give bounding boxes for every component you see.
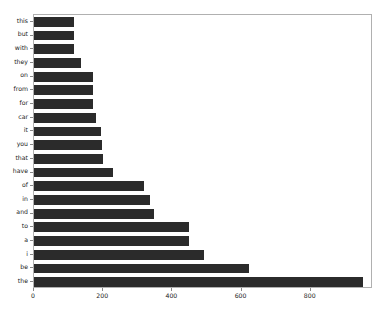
y-tick-label: but	[18, 31, 28, 37]
y-axis: thisbutwiththeyonfromforcarityouthathave…	[0, 14, 33, 288]
bar	[34, 99, 93, 109]
y-tick-label: you	[17, 141, 28, 147]
y-tick-label: this	[17, 18, 28, 24]
bar	[34, 168, 113, 178]
y-tick-mark	[30, 213, 33, 214]
y-tick-mark	[30, 172, 33, 173]
bar	[34, 195, 150, 205]
y-tick-label: of	[22, 182, 28, 188]
bars-layer	[34, 15, 371, 287]
bar	[34, 209, 154, 219]
y-tick-mark	[30, 130, 33, 131]
bar-chart: thisbutwiththeyonfromforcarityouthathave…	[0, 0, 390, 315]
y-tick-label: they	[14, 59, 28, 65]
y-tick-label: i	[26, 251, 28, 257]
y-tick-label: car	[18, 114, 28, 120]
bar	[34, 264, 249, 274]
y-tick-label: to	[22, 223, 28, 229]
y-tick-mark	[30, 89, 33, 90]
y-tick-label: the	[18, 278, 28, 284]
x-axis: 0200400600800	[33, 288, 372, 315]
bar	[34, 17, 74, 27]
bar	[34, 85, 93, 95]
y-tick-mark	[30, 144, 33, 145]
y-tick-label: have	[13, 168, 28, 174]
y-tick-label: be	[20, 264, 28, 270]
y-tick-mark	[30, 48, 33, 49]
bar	[34, 127, 101, 137]
y-tick-label: on	[20, 72, 28, 78]
y-tick-label: for	[19, 100, 28, 106]
bar	[34, 31, 74, 41]
bar	[34, 72, 93, 82]
x-tick-mark	[171, 288, 172, 291]
y-tick-mark	[30, 226, 33, 227]
bar	[34, 44, 74, 54]
y-tick-label: from	[14, 86, 28, 92]
y-tick-label: that	[15, 155, 28, 161]
bar	[34, 181, 144, 191]
y-tick-label: with	[15, 45, 28, 51]
bar	[34, 236, 189, 246]
bar	[34, 154, 103, 164]
bar	[34, 113, 96, 123]
y-tick-label: it	[24, 127, 28, 133]
bar	[34, 250, 204, 260]
x-tick-mark	[33, 288, 34, 291]
y-tick-mark	[30, 117, 33, 118]
y-tick-mark	[30, 21, 33, 22]
y-tick-mark	[30, 103, 33, 104]
y-tick-mark	[30, 185, 33, 186]
x-tick-label: 200	[96, 293, 108, 299]
y-tick-mark	[30, 158, 33, 159]
x-tick-label: 800	[304, 293, 316, 299]
y-tick-mark	[30, 35, 33, 36]
bar	[34, 222, 189, 232]
bar	[34, 140, 102, 150]
y-tick-mark	[30, 254, 33, 255]
x-tick-mark	[241, 288, 242, 291]
y-tick-label: in	[22, 196, 28, 202]
x-tick-label: 600	[235, 293, 247, 299]
y-tick-label: and	[16, 209, 28, 215]
y-tick-mark	[30, 62, 33, 63]
bar	[34, 277, 363, 287]
plot-area	[33, 14, 372, 288]
x-tick-mark	[310, 288, 311, 291]
x-tick-label: 0	[31, 293, 35, 299]
y-tick-mark	[30, 199, 33, 200]
y-tick-mark	[30, 76, 33, 77]
bar	[34, 58, 81, 68]
y-tick-mark	[30, 240, 33, 241]
y-tick-mark	[30, 267, 33, 268]
y-tick-mark	[30, 281, 33, 282]
y-tick-label: a	[24, 237, 28, 243]
x-tick-mark	[102, 288, 103, 291]
x-tick-label: 400	[165, 293, 177, 299]
